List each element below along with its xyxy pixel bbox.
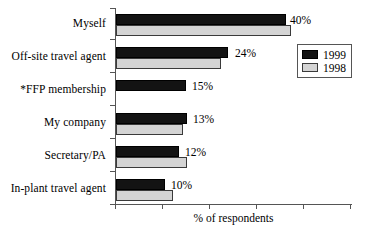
bar-1999-in-plant-travel-agent[interactable] bbox=[116, 179, 165, 190]
category-label-myself: Myself bbox=[73, 17, 106, 29]
category-label-in-plant-travel-agent: In-plant travel agent bbox=[11, 182, 106, 194]
y-axis-tick bbox=[110, 138, 115, 139]
bar-1998-my-company[interactable] bbox=[116, 124, 183, 135]
y-axis-line bbox=[115, 8, 116, 204]
bar-1999-ffp-membership[interactable] bbox=[116, 80, 186, 91]
y-axis-tick bbox=[110, 39, 115, 40]
x-axis-line bbox=[115, 204, 352, 205]
plot-area: 40% 24% 15% 13% 12% 10% bbox=[115, 8, 352, 204]
bar-value-in-plant-travel-agent: 10% bbox=[171, 180, 192, 191]
x-axis-tick bbox=[162, 204, 163, 209]
bar-1999-myself[interactable] bbox=[116, 14, 286, 25]
x-axis-tick bbox=[303, 204, 304, 209]
bar-1998-myself[interactable] bbox=[116, 25, 291, 36]
bar-1998-off-site-travel-agent[interactable] bbox=[116, 58, 221, 69]
category-label-ffp-membership: *FFP membership bbox=[20, 83, 106, 95]
category-label-off-site-travel-agent: Off-site travel agent bbox=[12, 50, 107, 62]
bar-value-off-site-travel-agent: 24% bbox=[235, 48, 256, 59]
x-axis-tick bbox=[209, 204, 210, 209]
bar-value-myself: 40% bbox=[290, 15, 311, 26]
legend-item-1999[interactable]: 1999 bbox=[302, 48, 346, 61]
y-axis-tick bbox=[110, 171, 115, 172]
legend-swatch-1998-icon bbox=[302, 63, 318, 72]
legend-item-1998[interactable]: 1998 bbox=[302, 61, 346, 74]
x-axis-tick bbox=[256, 204, 257, 209]
bar-1999-my-company[interactable] bbox=[116, 113, 187, 124]
bar-1999-secretary-pa[interactable] bbox=[116, 146, 179, 157]
y-axis-tick bbox=[110, 72, 115, 73]
x-axis-tick bbox=[350, 204, 351, 209]
bar-value-my-company: 13% bbox=[193, 114, 214, 125]
x-axis-tick bbox=[115, 204, 116, 209]
legend-label-1999: 1999 bbox=[323, 49, 346, 61]
bar-1998-secretary-pa[interactable] bbox=[116, 157, 187, 168]
bar-value-secretary-pa: 12% bbox=[185, 147, 206, 158]
x-axis-title: % of respondents bbox=[115, 212, 352, 224]
y-axis-tick bbox=[110, 105, 115, 106]
category-label-my-company: My company bbox=[44, 116, 106, 128]
legend-label-1998: 1998 bbox=[323, 62, 346, 74]
bar-1999-off-site-travel-agent[interactable] bbox=[116, 47, 228, 58]
bar-chart: Myself Off-site travel agent *FFP member… bbox=[0, 0, 380, 238]
category-label-secretary-pa: Secretary/PA bbox=[45, 149, 106, 161]
chart-legend: 1999 1998 bbox=[297, 44, 352, 78]
bar-1998-in-plant-travel-agent[interactable] bbox=[116, 190, 173, 201]
y-axis-tick bbox=[110, 8, 115, 9]
category-axis-labels: Myself Off-site travel agent *FFP member… bbox=[0, 8, 110, 204]
legend-swatch-1999-icon bbox=[302, 50, 318, 59]
bar-value-ffp-membership: 15% bbox=[192, 81, 213, 92]
